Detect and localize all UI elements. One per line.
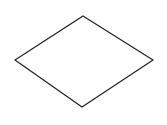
diamond-shape <box>15 16 153 107</box>
diagram-canvas <box>0 0 167 125</box>
